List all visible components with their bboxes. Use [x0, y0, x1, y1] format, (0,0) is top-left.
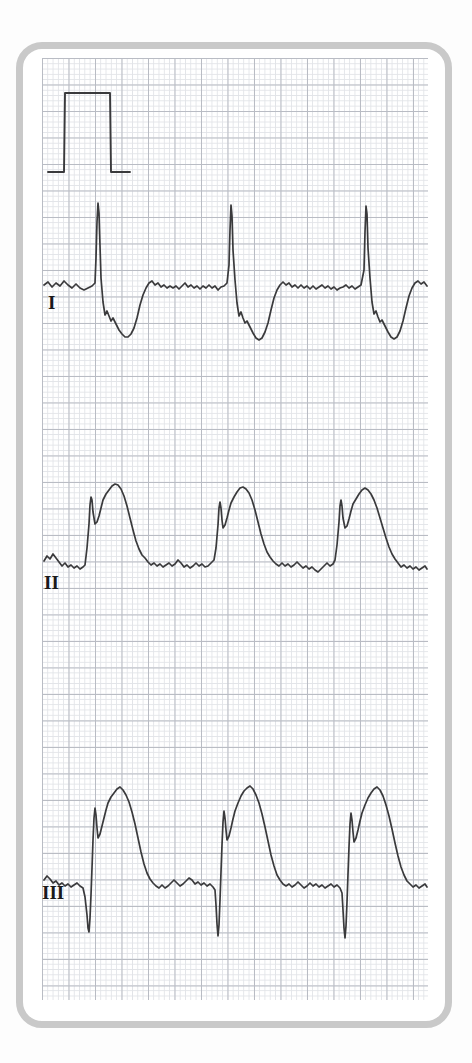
lead-label-I: I — [48, 293, 55, 312]
lead-label-III: III — [42, 883, 64, 902]
ecg-strip-page: I II III — [0, 0, 472, 1063]
lead-label-II: II — [44, 573, 59, 592]
ecg-grid — [42, 58, 428, 1000]
